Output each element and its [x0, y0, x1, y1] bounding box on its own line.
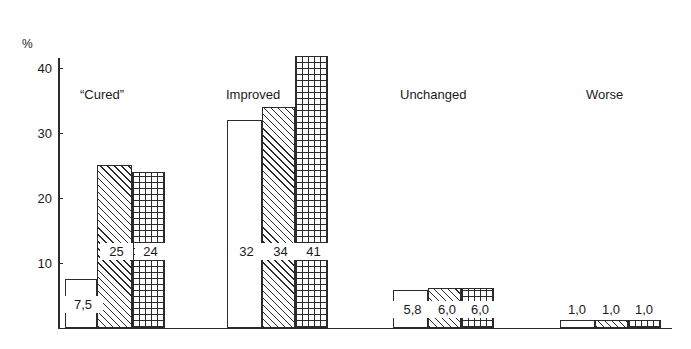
value-label-improved-series-3: 41: [297, 243, 330, 260]
y-tick-label-40: 40: [22, 62, 52, 75]
bar-worse-series-3: [628, 320, 661, 328]
y-tick-mark-20: [58, 198, 63, 200]
y-axis-unit-label: %: [22, 38, 33, 50]
group-caption-worse: Worse: [586, 88, 623, 101]
bar-worse-series-1: [560, 320, 595, 328]
value-label-worse-series-2: 1,0: [593, 302, 629, 317]
value-label-cured-series-2: 25: [100, 243, 133, 260]
value-label-unchanged-series-1: 5,8: [392, 301, 433, 318]
y-tick-label-30: 30: [22, 127, 52, 140]
value-label-improved-series-1: 32: [229, 243, 264, 260]
y-tick-mark-30: [58, 133, 63, 135]
y-tick-label-20: 20: [22, 192, 52, 205]
y-tick-label-10: 10: [22, 257, 52, 270]
y-axis-line: [58, 58, 60, 329]
value-label-unchanged-series-3: 6,0: [461, 301, 499, 318]
group-caption-improved: Improved: [226, 88, 280, 101]
y-tick-mark-40: [58, 68, 63, 70]
group-caption-unchanged: Unchanged: [400, 88, 467, 101]
bar-chart-figure: % 40 30 20 10 “Cured” 7,5 25 24 Improved…: [0, 0, 691, 349]
bar-worse-series-2: [595, 320, 628, 328]
bar-improved-series-2: [262, 107, 295, 328]
y-tick-mark-10: [58, 263, 63, 265]
value-label-cured-series-1: 7,5: [63, 296, 103, 313]
value-label-cured-series-3: 24: [135, 243, 166, 260]
bar-improved-series-1: [227, 120, 262, 328]
value-label-worse-series-1: 1,0: [558, 302, 596, 317]
value-label-improved-series-2: 34: [264, 243, 297, 260]
bar-improved-series-3: [295, 56, 328, 328]
value-label-worse-series-3: 1,0: [626, 302, 662, 317]
group-caption-cured: “Cured”: [80, 88, 124, 101]
